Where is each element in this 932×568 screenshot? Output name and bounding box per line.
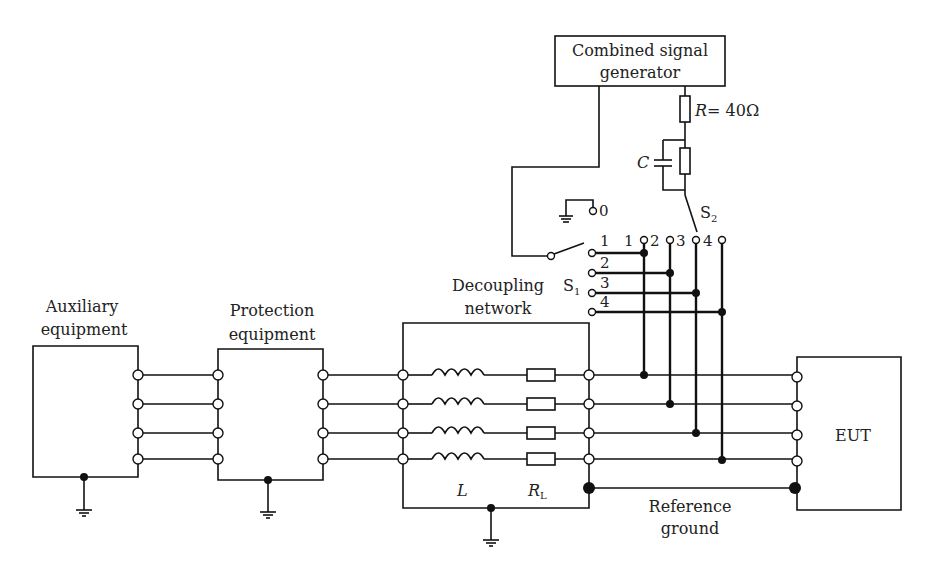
svg-text:Decoupling: Decoupling xyxy=(452,276,544,295)
reference-ground: Reference ground xyxy=(583,482,801,538)
resistor-r-icon xyxy=(680,96,690,122)
generator-to-s1-wire xyxy=(512,86,599,256)
switch-s1-label: S1 xyxy=(563,276,580,297)
signal-lines xyxy=(138,369,797,465)
generator-label-line1: Combined signal xyxy=(572,41,708,60)
resistor-r-label: R= 40Ω xyxy=(694,101,759,120)
coupling-network: R= 40Ω C S2 xyxy=(637,86,759,232)
switch-s2-label: S2 xyxy=(700,203,717,224)
svg-text:3: 3 xyxy=(676,232,686,250)
decoupling-network: Decoupling network L RL xyxy=(403,276,589,546)
inductor-icon xyxy=(432,369,484,375)
svg-text:Auxiliary: Auxiliary xyxy=(45,297,118,316)
svg-text:Reference: Reference xyxy=(649,497,732,516)
generator-label-line2: generator xyxy=(600,63,681,82)
switch-s1-blade xyxy=(554,243,584,254)
svg-text:2: 2 xyxy=(600,254,610,272)
svg-text:RL: RL xyxy=(527,481,547,501)
svg-text:0: 0 xyxy=(599,202,609,220)
auxiliary-equipment: Auxiliary equipment xyxy=(33,297,138,516)
eut: EUT xyxy=(797,357,901,510)
terminals xyxy=(133,370,802,466)
combined-signal-generator: Combined signal generator xyxy=(555,36,725,86)
svg-text:1: 1 xyxy=(624,232,634,250)
capacitor-label: C xyxy=(637,153,649,172)
svg-text:EUT: EUT xyxy=(835,426,871,445)
svg-text:equipment: equipment xyxy=(41,320,128,339)
switch-s2-contacts: 1 2 3 4 xyxy=(624,232,726,250)
svg-text:equipment: equipment xyxy=(229,325,316,344)
svg-text:3: 3 xyxy=(600,274,610,292)
svg-text:1: 1 xyxy=(600,232,610,250)
svg-text:Protection: Protection xyxy=(230,301,314,320)
svg-text:network: network xyxy=(465,299,532,318)
resistor-parallel-icon xyxy=(680,148,690,174)
svg-text:2: 2 xyxy=(650,232,660,250)
svg-text:ground: ground xyxy=(661,519,719,538)
svg-text:4: 4 xyxy=(600,293,610,311)
svg-text:4: 4 xyxy=(703,232,713,250)
resistor-rl-icon xyxy=(527,369,555,381)
switch-s2-blade xyxy=(685,195,697,232)
svg-text:L: L xyxy=(456,481,468,500)
emc-test-setup-diagram: Combined signal generator R= 40Ω C S2 1 … xyxy=(0,0,932,568)
protection-equipment: Protection equipment xyxy=(218,301,323,518)
coupling-verticals xyxy=(640,244,726,464)
